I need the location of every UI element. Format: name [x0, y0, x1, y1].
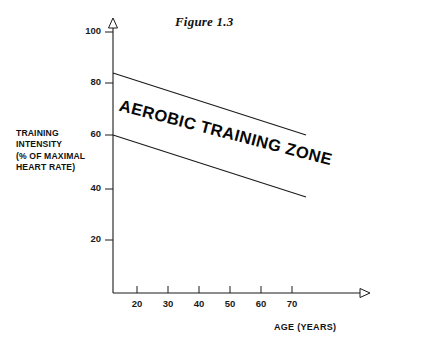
y-tick-label-40: 40 [90, 182, 101, 193]
x-tick-label-60: 60 [256, 298, 267, 309]
y-axis-caption-line-3: (% OF MAXIMAL [16, 151, 108, 162]
y-tick-label-100: 100 [85, 25, 101, 36]
y-axis-caption-line-1: TRAINING [16, 128, 108, 139]
y-axis-arrowhead-icon [109, 18, 118, 28]
figure-container: Figure 1.3 100 80 60 40 20 [0, 0, 423, 354]
x-axis-arrowhead-icon [360, 289, 370, 298]
y-axis-caption-line-4: HEART RATE) [16, 162, 108, 173]
y-tick-label-80: 80 [90, 76, 101, 87]
x-axis-caption: AGE (YEARS) [274, 322, 336, 332]
y-axis-caption: TRAINING INTENSITY (% OF MAXIMAL HEART R… [16, 128, 108, 174]
x-tick-label-40: 40 [194, 298, 205, 309]
x-tick-label-30: 30 [163, 298, 174, 309]
y-axis-caption-line-2: INTENSITY [16, 139, 108, 150]
chart-plot-area: 100 80 60 40 20 20 30 40 50 60 70 [0, 0, 423, 354]
x-tick-label-70: 70 [287, 298, 298, 309]
x-tick-label-20: 20 [132, 298, 143, 309]
x-axis-ticks [137, 286, 292, 293]
y-tick-label-20: 20 [90, 233, 101, 244]
x-tick-label-50: 50 [225, 298, 236, 309]
x-axis-tick-labels: 20 30 40 50 60 70 [132, 298, 298, 309]
